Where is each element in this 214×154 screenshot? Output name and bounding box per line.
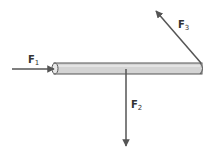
force-label-f1: F1 — [28, 55, 39, 67]
rod — [52, 63, 203, 74]
force-label-f3: F3 — [178, 20, 189, 32]
force-label-f2: F2 — [131, 100, 142, 112]
